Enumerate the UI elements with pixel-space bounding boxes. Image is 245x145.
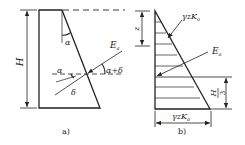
resultant-height-dimension: H 3: [209, 78, 227, 108]
pressure-triangle: [155, 11, 210, 109]
wall-outline: [39, 10, 100, 108]
base-pressure-dimension: γzKa: [155, 111, 211, 127]
svg-text:α: α: [65, 38, 71, 47]
friction-angle-delta: δ: [71, 88, 76, 97]
panel-a-retaining-wall: H α Ea α+δ α δ: [14, 10, 125, 136]
depth-label: z: [133, 27, 141, 32]
pressure-label-top: γzKa: [168, 12, 200, 38]
force-label-ea: Ea: [109, 40, 120, 51]
svg-text:γzKa: γzKa: [172, 112, 190, 122]
svg-text:γzKa: γzKa: [182, 12, 200, 22]
earth-pressure-diagram: H α Ea α+δ α δ: [0, 0, 245, 145]
force-label-ea-b: Ea: [211, 46, 222, 57]
svg-text:α+δ: α+δ: [106, 66, 123, 75]
height-dimension: H: [14, 10, 37, 108]
panel-a-caption: a): [62, 127, 70, 136]
depth-dimension: z: [133, 11, 150, 46]
angle-alpha-plus-delta: α+δ: [102, 64, 123, 75]
panel-b-caption: b): [178, 127, 186, 136]
pressure-hatching: [155, 22, 200, 98]
h-over-3-denominator: 3: [219, 91, 227, 95]
height-label: H: [14, 57, 25, 67]
svg-text:α: α: [57, 66, 63, 75]
h-over-3-numerator: H: [209, 88, 218, 97]
panel-b-pressure-distribution: z γzKa Ea H: [133, 11, 232, 136]
